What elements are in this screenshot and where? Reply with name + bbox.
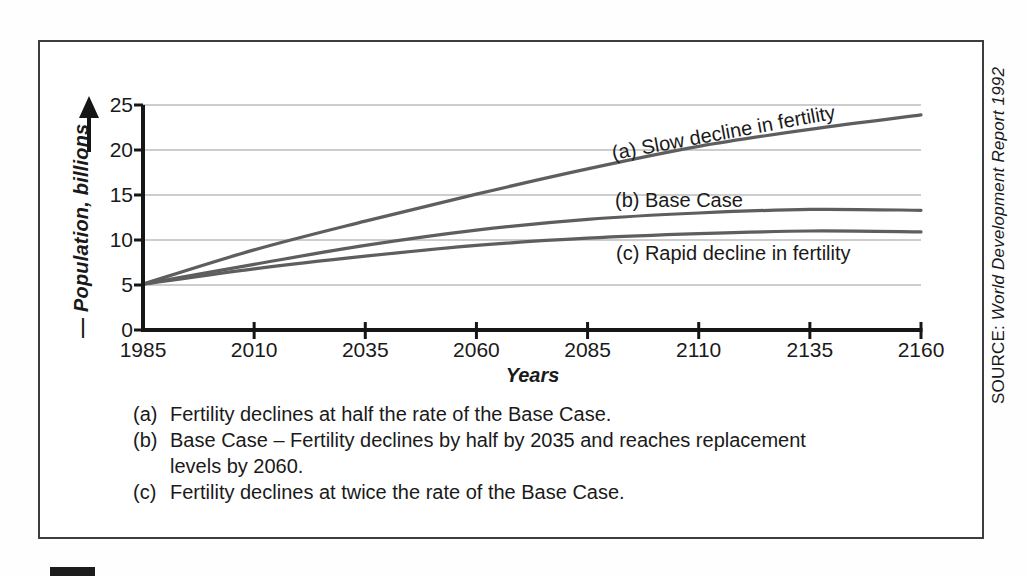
- source-note: SOURCE: World Development Report 1992: [989, 67, 1009, 404]
- footnote-c: (c) Fertility declines at twice the rate…: [133, 479, 830, 505]
- footnote-a: (a) Fertility declines at half the rate …: [133, 401, 830, 427]
- y-tick-label: 0: [75, 318, 133, 342]
- page: { "source": { "label": "SOURCE:", "title…: [0, 0, 1027, 576]
- footnotes: (a) Fertility declines at half the rate …: [133, 401, 830, 505]
- x-tick-label: 2035: [330, 338, 400, 362]
- x-axis-label: Years: [460, 364, 605, 387]
- x-tick-label: 2060: [441, 338, 511, 362]
- x-tick-label: 2135: [775, 338, 845, 362]
- footnote-marker: (b): [133, 427, 170, 479]
- section-marker-bar: [50, 567, 95, 576]
- y-tick-label: 25: [75, 93, 133, 117]
- x-tick-label: 2085: [553, 338, 623, 362]
- x-tick-label: 2160: [886, 338, 956, 362]
- y-tick-label: 20: [75, 138, 133, 162]
- source-label: SOURCE:: [989, 325, 1008, 404]
- footnote-marker: (a): [133, 401, 170, 427]
- footnote-text: Base Case – Fertility declines by half b…: [170, 427, 830, 479]
- footnote-text: Fertility declines at twice the rate of …: [170, 479, 625, 505]
- source-title: World Development Report 1992: [989, 67, 1008, 320]
- curve-label-rapid-decline: (c) Rapid decline in fertility: [616, 242, 851, 265]
- footnote-marker: (c): [133, 479, 170, 505]
- y-tick-label: 15: [75, 183, 133, 207]
- y-tick-label: 10: [75, 228, 133, 252]
- x-tick-label: 2010: [219, 338, 289, 362]
- curve-label-base-case: (b) Base Case: [615, 189, 743, 212]
- footnote-b: (b) Base Case – Fertility declines by ha…: [133, 427, 830, 479]
- footnote-text: Fertility declines at half the rate of t…: [170, 401, 611, 427]
- x-tick-label: 2110: [664, 338, 734, 362]
- y-tick-label: 5: [75, 273, 133, 297]
